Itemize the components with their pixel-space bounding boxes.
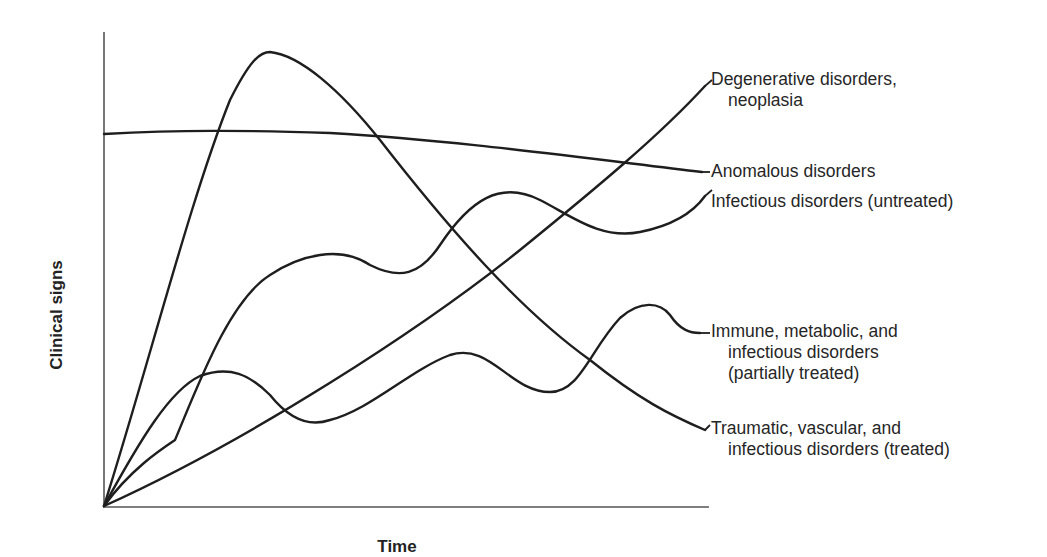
label-infectious-untreated: Infectious disorders (untreated): [711, 191, 953, 212]
x-axis-title: Time: [377, 537, 416, 557]
label-degenerative-line1: Degenerative disorders,: [711, 69, 897, 89]
curve-degenerative: [104, 86, 705, 506]
curve-infectious-untreated: [104, 192, 705, 506]
label-immune-line3: (partially treated): [711, 363, 898, 384]
label-anomalous-line1: Anomalous disorders: [711, 161, 875, 181]
label-traumatic-line2: infectious disorders (treated): [711, 439, 950, 460]
label-anomalous: Anomalous disorders: [711, 161, 875, 182]
label-immune: Immune, metabolic, and infectious disord…: [711, 321, 898, 384]
label-traumatic-line1: Traumatic, vascular, and: [711, 418, 901, 438]
label-traumatic: Traumatic, vascular, and infectious diso…: [711, 418, 950, 460]
curve-traumatic-treated: [104, 52, 705, 506]
label-infectious-untreated-line1: Infectious disorders (untreated): [711, 191, 953, 211]
label-degenerative-line2: neoplasia: [711, 90, 897, 111]
label-degenerative: Degenerative disorders, neoplasia: [711, 69, 897, 111]
label-immune-line1: Immune, metabolic, and: [711, 321, 898, 341]
label-immune-line2: infectious disorders: [711, 342, 898, 363]
y-axis-title: Clinical signs: [47, 260, 67, 370]
leader-traumatic: [705, 425, 710, 430]
curve-anomalous: [104, 131, 702, 172]
